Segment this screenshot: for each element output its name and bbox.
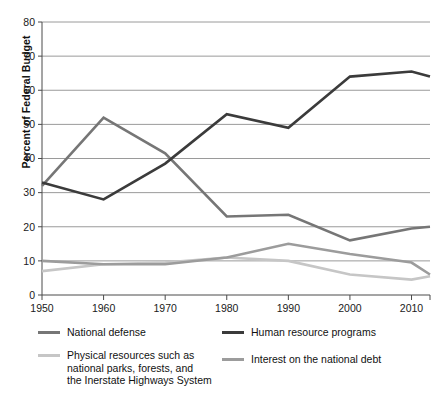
- x-axis-labels: 1950196019701980199020002010: [30, 302, 423, 312]
- legend-item-national-defense: National defense: [38, 326, 146, 339]
- line-chart-svg: 01020304050607080 1950196019701980199020…: [0, 0, 436, 312]
- x-tick-label-1980: 1980: [215, 302, 239, 312]
- x-tick-label-1970: 1970: [153, 302, 177, 312]
- gridlines: [42, 22, 430, 261]
- x-tick-label-2000: 2000: [338, 302, 362, 312]
- legend-color-swatch-human-resource-programs: [222, 331, 244, 334]
- legend-label-interest-national-debt: Interest on the national debt: [251, 353, 381, 366]
- legend-label-national-defense: National defense: [67, 326, 146, 339]
- x-tick-label-1960: 1960: [92, 302, 116, 312]
- x-tick-label-2010: 2010: [400, 302, 424, 312]
- y-tick-label-30: 30: [23, 186, 35, 198]
- y-tick-label-80: 80: [23, 16, 35, 28]
- y-tick-label-20: 20: [23, 221, 35, 233]
- legend-item-physical-resources: Physical resources such as national park…: [38, 349, 212, 387]
- y-tick-label-0: 0: [29, 289, 35, 301]
- legend-label-human-resource-programs: Human resource programs: [251, 326, 376, 339]
- y-axis-title: Percent of Federal Budget: [20, 32, 32, 172]
- data-series: [42, 71, 430, 279]
- legend-label-physical-resources: Physical resources such as national park…: [67, 349, 212, 387]
- series-line-national-defense: [42, 118, 430, 241]
- x-tick-label-1950: 1950: [30, 302, 54, 312]
- legend-color-swatch-national-defense: [38, 331, 60, 334]
- legend-color-swatch-physical-resources: [38, 354, 60, 357]
- legend-color-swatch-interest-national-debt: [222, 358, 244, 361]
- legend-item-interest-national-debt: Interest on the national debt: [222, 353, 381, 366]
- y-tick-label-10: 10: [23, 255, 35, 267]
- chart-legend: National defense Human resource programs…: [0, 322, 436, 400]
- legend-item-human-resource-programs: Human resource programs: [222, 326, 376, 339]
- x-tick-label-1990: 1990: [277, 302, 301, 312]
- plot-area: 01020304050607080 1950196019701980199020…: [0, 0, 436, 312]
- chart-container: 01020304050607080 1950196019701980199020…: [0, 0, 436, 400]
